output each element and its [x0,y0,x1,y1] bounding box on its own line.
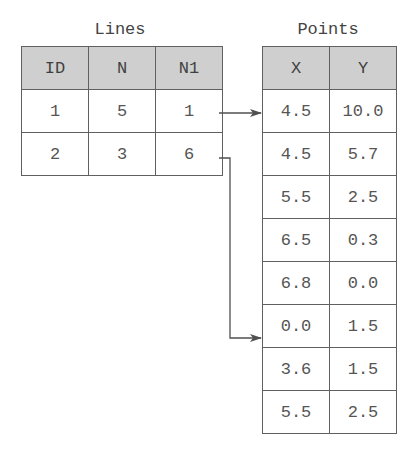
connector-arrows [0,0,412,469]
arrow-line2-to-point6 [219,158,261,338]
